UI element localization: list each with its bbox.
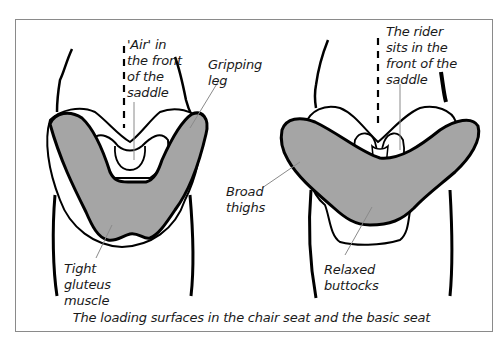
label-broad-thighs: Broad thighs	[226, 184, 265, 216]
horse-right-leg	[190, 195, 193, 296]
horse-left-leg	[310, 190, 316, 298]
figure-caption: The loading surfaces in the chair seat a…	[0, 310, 503, 325]
horse-left-side	[57, 49, 72, 112]
label-rider-sits-front: The rider sits in the front of the saddl…	[386, 24, 457, 88]
label-gripping-leg: Gripping leg	[208, 57, 262, 89]
label-tight-gluteus-muscle: Tight gluteus muscle	[64, 261, 111, 309]
horse-right-leg	[450, 190, 452, 296]
horse-left-leg	[53, 195, 57, 296]
label-air-in-front-of-saddle: 'Air' in the front of the saddle	[127, 37, 182, 101]
horse-left-side	[315, 40, 328, 108]
leader-broad-thighs	[262, 162, 300, 188]
label-relaxed-buttocks: Relaxed buttocks	[324, 262, 379, 294]
